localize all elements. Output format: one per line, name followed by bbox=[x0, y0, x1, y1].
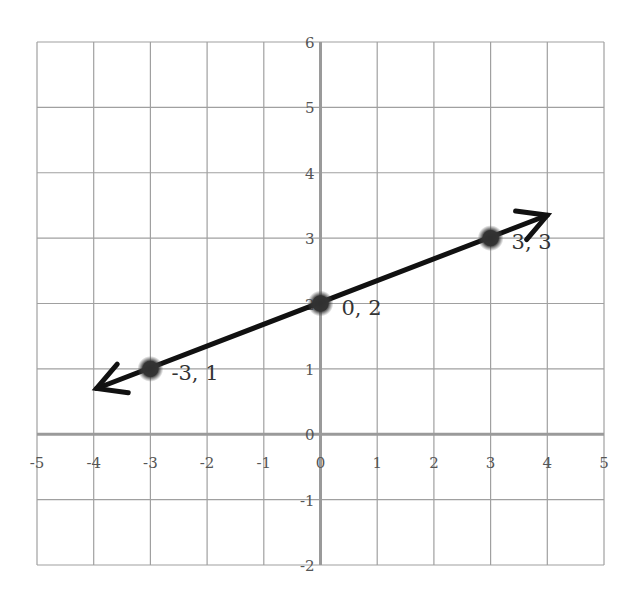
y-tick-label: 3 bbox=[305, 230, 315, 248]
y-tick-label: 4 bbox=[305, 165, 315, 183]
data-point-label: 3, 3 bbox=[512, 230, 552, 254]
x-tick-label: 3 bbox=[486, 454, 496, 472]
x-tick-label: -2 bbox=[200, 454, 215, 472]
data-point-core bbox=[313, 296, 329, 312]
x-tick-label: -5 bbox=[30, 454, 45, 472]
x-tick-label: 4 bbox=[543, 454, 553, 472]
data-point-core bbox=[483, 230, 499, 246]
x-tick-label: 2 bbox=[429, 454, 439, 472]
data-point-label: 0, 2 bbox=[342, 296, 382, 320]
x-tick-label: 5 bbox=[599, 454, 609, 472]
y-tick-label: 5 bbox=[305, 99, 315, 117]
y-tick-label: 1 bbox=[305, 361, 315, 379]
y-tick-label: -1 bbox=[300, 492, 315, 510]
coordinate-plane: -5-4-3-2-1012345-2-10123456 -3, 10, 23, … bbox=[0, 0, 642, 597]
x-tick-label: 0 bbox=[316, 454, 326, 472]
y-tick-label: -2 bbox=[300, 557, 315, 575]
data-points: -3, 10, 23, 3 bbox=[137, 225, 551, 385]
data-point-core bbox=[142, 361, 158, 377]
x-tick-label: -1 bbox=[256, 454, 271, 472]
x-tick-label: -4 bbox=[86, 454, 101, 472]
y-tick-label: 0 bbox=[305, 426, 315, 444]
data-point-label: -3, 1 bbox=[171, 361, 218, 385]
y-tick-label: 6 bbox=[305, 34, 315, 52]
x-tick-label: 1 bbox=[372, 454, 382, 472]
x-tick-label: -3 bbox=[143, 454, 158, 472]
